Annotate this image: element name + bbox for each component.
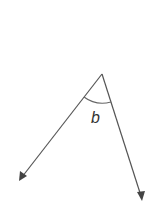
angle-label: b (91, 109, 100, 126)
right-ray (102, 74, 145, 201)
angle-arc (84, 97, 111, 103)
left-ray (19, 74, 102, 181)
right-arrowhead-icon (137, 191, 145, 201)
angle-diagram: b (0, 0, 163, 202)
